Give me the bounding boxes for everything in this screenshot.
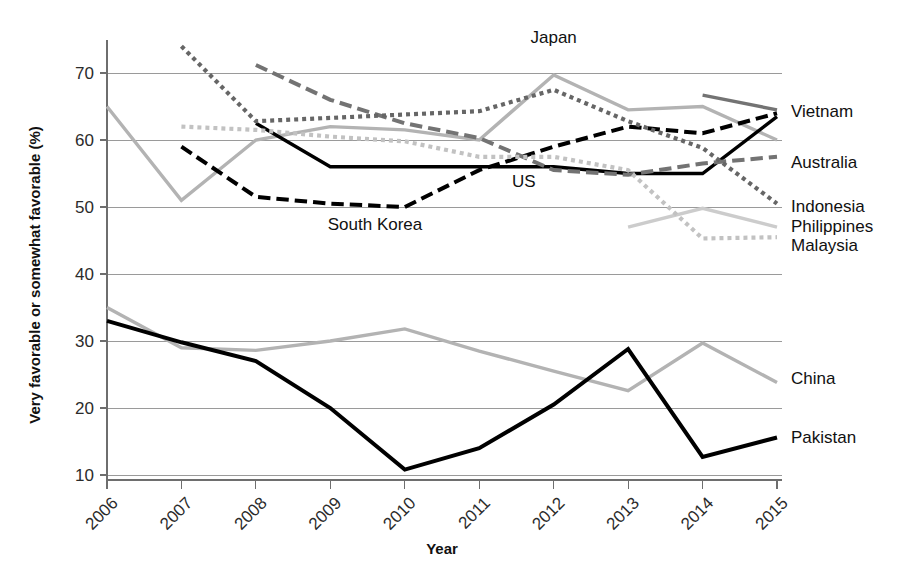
x-tick-label-2013: 2013 xyxy=(603,493,643,533)
series-label-china: China xyxy=(791,369,836,388)
x-tick-label-2009: 2009 xyxy=(305,493,345,533)
gridlines-group xyxy=(107,73,782,475)
series-line-malaysia xyxy=(181,127,777,239)
series-label-indonesia: Indonesia xyxy=(791,197,865,216)
x-axis-title: Year xyxy=(426,540,458,557)
line-chart: 10203040506070 2006200720082009201020112… xyxy=(0,0,903,569)
x-tick-label-2007: 2007 xyxy=(156,493,196,533)
y-tick-label-30: 30 xyxy=(75,332,94,351)
y-tick-label-50: 50 xyxy=(75,198,94,217)
series-label-malaysia: Malaysia xyxy=(791,236,859,255)
series-lines-group xyxy=(107,46,777,469)
chart-canvas: 10203040506070 2006200720082009201020112… xyxy=(0,0,903,569)
y-tick-marks-group xyxy=(100,73,107,475)
x-tick-label-2010: 2010 xyxy=(379,493,419,533)
series-line-philippines xyxy=(628,208,777,227)
y-axis-title: Very favorable or somewhat favorable (%) xyxy=(26,126,43,424)
x-tick-label-2014: 2014 xyxy=(677,493,717,533)
y-tick-labels-group: 10203040506070 xyxy=(75,64,94,485)
y-tick-label-70: 70 xyxy=(75,64,94,83)
x-tick-label-2008: 2008 xyxy=(231,493,271,533)
x-tick-label-2012: 2012 xyxy=(528,493,568,533)
x-tick-label-2015: 2015 xyxy=(752,493,792,533)
x-tick-marks-group xyxy=(107,480,777,489)
y-tick-label-10: 10 xyxy=(75,466,94,485)
series-label-us: US xyxy=(512,172,536,191)
x-tick-label-2011: 2011 xyxy=(455,493,494,532)
y-tick-label-60: 60 xyxy=(75,131,94,150)
series-line-vietnam xyxy=(703,95,777,110)
y-tick-label-40: 40 xyxy=(75,265,94,284)
series-label-vietnam: Vietnam xyxy=(791,102,853,121)
series-label-japan: Japan xyxy=(531,28,577,47)
series-label-south-korea: South Korea xyxy=(328,215,423,234)
y-tick-label-20: 20 xyxy=(75,399,94,418)
series-label-pakistan: Pakistan xyxy=(791,428,856,447)
right-series-labels-group: VietnamAustraliaIndonesiaPhilippinesMala… xyxy=(791,102,873,447)
series-label-philippines: Philippines xyxy=(791,217,873,236)
series-line-indonesia xyxy=(181,46,777,203)
x-tick-labels-group: 2006200720082009201020112012201320142015 xyxy=(82,493,792,533)
series-label-australia: Australia xyxy=(791,153,858,172)
series-line-south-korea xyxy=(181,113,777,207)
series-line-pakistan xyxy=(107,321,777,470)
x-tick-label-2006: 2006 xyxy=(82,493,122,533)
